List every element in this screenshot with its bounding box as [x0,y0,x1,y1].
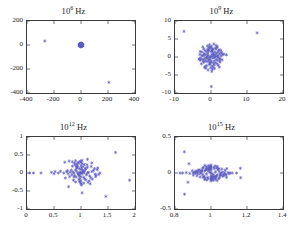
plot-area[interactable] [26,20,136,94]
y-tick-label: 200 [0,17,23,24]
figure-panel: 106Hz -400-2000200-400-2000200400 109Hz … [0,0,295,233]
x-tick-label: -200 [47,96,60,103]
subplot-title: 1012Hz [0,122,147,132]
title-exponent: 9 [218,5,221,11]
title-exponent: 15 [217,121,223,127]
y-tick-label: 0.5 [148,133,171,140]
title-unit: Hz [225,122,235,132]
y-tick-label: 10 [148,17,171,24]
y-tick-label: 0 [148,169,171,176]
x-tick-label: 400 [129,96,140,103]
title-exponent: 6 [70,5,73,11]
scatter-layer [27,21,137,95]
title-exponent: 12 [69,121,75,127]
title-unit: Hz [223,6,233,16]
x-tick-label: 0.5 [49,212,58,219]
x-tick-label: 0.8 [170,212,179,219]
title-mantissa: 10 [208,122,217,132]
title-unit: Hz [75,6,85,16]
y-tick-label: -200 [0,65,23,72]
x-tick-label: 0 [78,96,82,103]
x-tick-label: -400 [20,96,33,103]
scatter-layer [175,21,285,95]
y-tick-label: 5 [148,35,171,42]
plot-area[interactable] [26,136,136,210]
subplot-title: 1015Hz [148,122,295,132]
y-tick-label: 0 [0,41,23,48]
x-tick-label: 0 [208,96,212,103]
subplot-1e9: 109Hz -10-50510-1001020 [148,0,295,116]
x-tick-label: 1.4 [278,212,287,219]
subplot-title: 106Hz [0,6,147,16]
y-tick-label: -5 [148,71,171,78]
x-tick-label: 1.2 [242,212,251,219]
subplot-1e15: 1015Hz -0.500.50.811.21.4 [148,116,295,232]
title-mantissa: 10 [62,6,71,16]
x-tick-label: 20 [279,96,286,103]
title-unit: Hz [77,122,87,132]
x-tick-label: -10 [169,96,178,103]
y-tick-label: -0.5 [148,205,171,212]
y-tick-label: -0.5 [0,187,23,194]
y-tick-label: 1 [0,133,23,140]
subplot-1e12: 1012Hz -1-0.500.5100.511.52 [0,116,147,232]
scatter-layer [27,137,137,211]
x-tick-label: 1 [208,212,212,219]
x-tick-label: 0 [24,212,28,219]
x-tick-label: 1.5 [103,212,112,219]
x-tick-label: 10 [243,96,250,103]
x-tick-label: 1 [78,212,82,219]
plot-area[interactable] [174,20,284,94]
y-tick-label: 0 [0,169,23,176]
x-tick-label: 200 [102,96,113,103]
y-tick-label: -10 [148,89,171,96]
subplot-1e6: 106Hz -400-2000200-400-2000200400 [0,0,147,116]
title-mantissa: 10 [210,6,219,16]
plot-area[interactable] [174,136,284,210]
title-mantissa: 10 [60,122,69,132]
y-tick-label: 0.5 [0,151,23,158]
subplot-title: 109Hz [148,6,295,16]
scatter-layer [175,137,285,211]
x-tick-label: 2 [132,212,136,219]
y-tick-label: -1 [0,205,23,212]
y-tick-label: 0 [148,53,171,60]
